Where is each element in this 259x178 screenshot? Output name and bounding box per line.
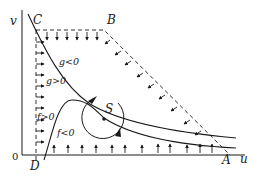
diagonal-edge-arrows [105,40,201,135]
u-axis-label: u [240,152,248,166]
g-positive-label: g>0 [46,75,66,86]
left-edge-arrows [36,42,44,142]
phase-plane-diagram: v u 0 C B D A S g<0 g>0 f>0 f<0 [0,0,259,178]
vertex-b-label: B [106,13,116,27]
equilibrium-label: S [105,102,113,116]
v-axis-label: v [10,14,17,28]
top-edge-arrows [47,32,97,40]
circle-arrow-top [88,96,97,104]
origin-label: 0 [12,151,18,162]
trapping-region-boundary [36,30,230,160]
circle-arrow-bottom [115,128,121,137]
vertex-c-label: C [33,13,42,27]
equilibrium-point [102,117,106,121]
f-negative-label: f<0 [56,127,75,138]
g-negative-label: g<0 [59,56,79,67]
bottom-edge-arrows [54,144,212,153]
f-positive-label: f>0 [36,111,55,122]
vertex-a-label: A [221,153,231,167]
vertex-d-label: D [29,159,40,173]
